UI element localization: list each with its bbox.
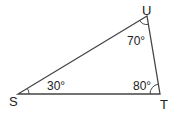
angle-arc-u bbox=[140, 20, 149, 25]
vertex-label-u: U bbox=[142, 3, 151, 18]
angle-label-s: 30° bbox=[47, 79, 65, 93]
vertex-label-t: T bbox=[160, 97, 168, 112]
angle-label-t: 80° bbox=[133, 79, 151, 93]
angle-arc-t bbox=[150, 84, 158, 94]
angle-arc-s bbox=[27, 89, 29, 95]
vertex-label-s: S bbox=[9, 94, 18, 109]
angle-label-u: 70° bbox=[127, 34, 145, 48]
triangle-diagram: S T U 30° 80° 70° bbox=[0, 0, 174, 116]
